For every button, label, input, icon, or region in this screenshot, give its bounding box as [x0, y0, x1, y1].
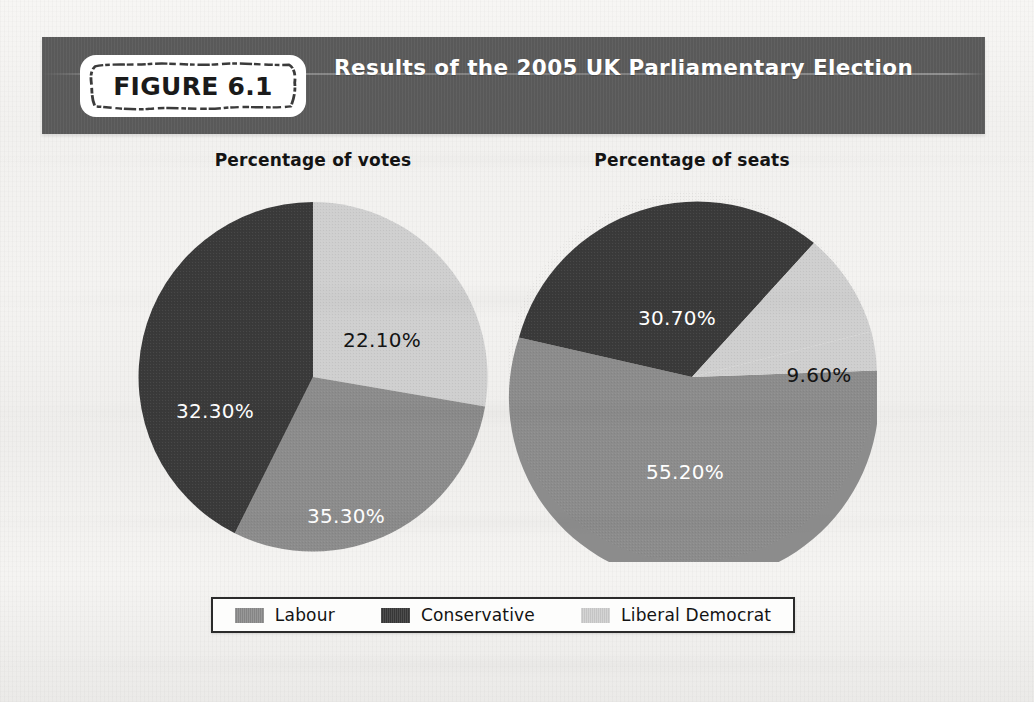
legend-swatch-conservative	[381, 608, 410, 623]
chart-legend: Labour Conservative Liberal Democrat	[211, 597, 795, 633]
pie-chart-votes-graphic: 22.10% 35.30% 32.30%	[138, 202, 488, 552]
legend-swatch-labour	[235, 608, 264, 623]
slice-label-labour: 55.20%	[646, 460, 724, 484]
legend-item-conservative: Conservative	[381, 605, 535, 625]
figure-header-bar: FIGURE 6.1 Results of the 2005 UK Parlia…	[42, 37, 985, 134]
slice-label-conservative: 32.30%	[176, 399, 254, 423]
pie-chart-seats: Percentage of seats	[502, 150, 882, 550]
charts-container: Percentage of votes	[0, 150, 1034, 580]
pie-chart-votes-title: Percentage of votes	[138, 150, 488, 170]
legend-swatch-liberal-democrat	[581, 608, 610, 623]
pie-chart-seats-graphic: 55.20% 30.70% 9.60%	[507, 192, 877, 562]
legend-item-labour: Labour	[235, 605, 335, 625]
scanned-page: FIGURE 6.1 Results of the 2005 UK Parlia…	[0, 0, 1034, 702]
pie-chart-votes: Percentage of votes	[138, 150, 488, 550]
legend-label-labour: Labour	[275, 605, 335, 625]
figure-number-badge: FIGURE 6.1	[80, 55, 306, 117]
slice-label-labour: 35.30%	[307, 504, 385, 528]
figure-title: Results of the 2005 UK Parliamentary Ele…	[334, 53, 934, 83]
legend-item-liberal-democrat: Liberal Democrat	[581, 605, 771, 625]
pie-chart-seats-title: Percentage of seats	[502, 150, 882, 170]
slice-label-liberal-democrat: 22.10%	[343, 328, 421, 352]
slice-label-conservative: 30.70%	[638, 306, 716, 330]
slice-label-liberal-democrat: 9.60%	[786, 363, 851, 387]
figure-number-label: FIGURE 6.1	[113, 72, 273, 101]
legend-label-conservative: Conservative	[421, 605, 535, 625]
legend-label-liberal-democrat: Liberal Democrat	[621, 605, 771, 625]
